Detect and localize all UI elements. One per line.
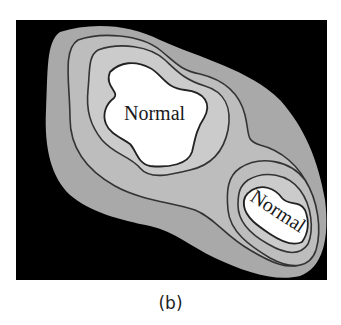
figure-caption: (b) (0, 293, 341, 313)
contour-map: Normal Normal (0, 0, 341, 325)
normal-label-big: Normal (124, 102, 186, 124)
contour-diagram: Normal Normal (b) (0, 0, 341, 325)
